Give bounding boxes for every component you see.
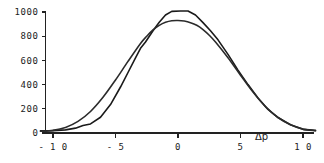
y-tick-label: 1000 [14, 7, 38, 17]
y-tick-label: 600 [20, 56, 38, 66]
series-line-fitted-gaussian [41, 20, 316, 131]
series-line-measured-distribution [41, 11, 316, 131]
data-series-group [41, 11, 316, 131]
y-axis-tick-labels: 02004006008001000 [14, 7, 38, 138]
chart-figure: 02004006008001000 - 1 0- 5051 0 Δp [0, 0, 324, 163]
distribution-plot: 02004006008001000 - 1 0- 5051 0 Δp [0, 0, 324, 163]
y-tick-label: 200 [20, 104, 38, 114]
y-tick-label: 400 [20, 80, 38, 90]
x-axis-title: Δp [255, 131, 268, 142]
x-tick-label: 1 0 [294, 142, 311, 152]
x-tick-label: - 5 [107, 142, 124, 152]
y-tick-label: 800 [20, 31, 38, 41]
x-tick-label: 5 [238, 142, 244, 152]
y-tick-label: 0 [32, 128, 38, 138]
x-axis-tick-labels: - 1 0- 5051 0 [38, 142, 311, 152]
x-tick-label: 0 [175, 142, 181, 152]
x-tick-label: - 1 0 [38, 142, 67, 152]
